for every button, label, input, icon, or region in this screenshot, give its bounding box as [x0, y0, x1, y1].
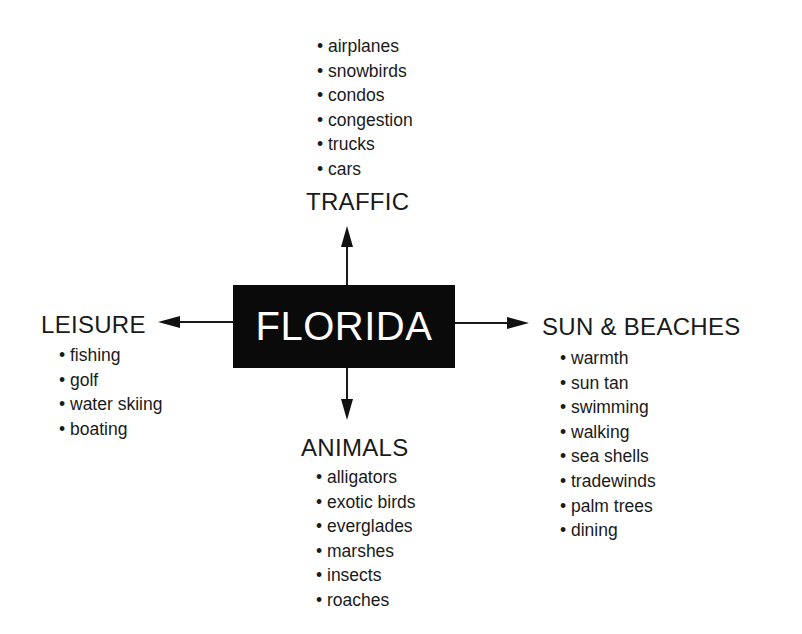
list-item: walking [560, 420, 656, 445]
arrow-down-icon [341, 399, 353, 420]
list-item: swimming [560, 395, 656, 420]
list-item: everglades [316, 514, 416, 539]
arrow-right-icon [507, 317, 529, 329]
list-item: sun tan [560, 371, 656, 396]
list-item: insects [316, 563, 416, 588]
list-item: water skiing [59, 392, 162, 417]
list-item: airplanes [317, 34, 413, 59]
animals-heading: ANIMALS [301, 434, 408, 462]
list-item: cars [317, 157, 413, 182]
list-item: exotic birds [316, 490, 416, 515]
list-item: tradewinds [560, 469, 656, 494]
list-item: condos [317, 83, 413, 108]
leisure-heading: LEISURE [41, 311, 146, 339]
list-item: snowbirds [317, 59, 413, 84]
list-item: palm trees [560, 494, 656, 519]
leisure-list: fishing golf water skiing boating [59, 343, 162, 441]
list-item: dining [560, 518, 656, 543]
list-item: marshes [316, 539, 416, 564]
list-item: fishing [59, 343, 162, 368]
list-item: roaches [316, 588, 416, 613]
animals-list: alligators exotic birds everglades marsh… [316, 465, 416, 613]
list-item: trucks [317, 132, 413, 157]
arrow-up-icon [341, 226, 353, 247]
list-item: sea shells [560, 444, 656, 469]
list-item: warmth [560, 346, 656, 371]
list-item: congestion [317, 108, 413, 133]
sun-beaches-heading: SUN & BEACHES [542, 313, 741, 341]
center-label: FLORIDA [233, 285, 455, 368]
list-item: alligators [316, 465, 416, 490]
list-item: golf [59, 368, 162, 393]
traffic-list: airplanes snowbirds condos congestion tr… [317, 34, 413, 182]
list-item: boating [59, 417, 162, 442]
traffic-heading: TRAFFIC [306, 188, 409, 216]
arrow-left-icon [158, 316, 180, 328]
sun-beaches-list: warmth sun tan swimming walking sea shel… [560, 346, 656, 543]
